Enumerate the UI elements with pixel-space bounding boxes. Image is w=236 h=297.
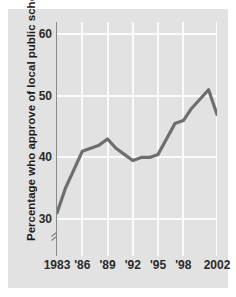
y-axis-tick-labels: 30405060	[0, 0, 52, 297]
chart-figure: Percentage who approve of local public s…	[0, 0, 236, 297]
y-tick-label-50: 50	[6, 90, 52, 102]
line-series	[57, 22, 217, 256]
x-tick-label-1983: 1983	[44, 258, 71, 272]
x-tick-label-2002: 2002	[204, 258, 231, 272]
x-tick-label-92: '92	[125, 258, 141, 272]
y-tick-label-30: 30	[6, 213, 52, 225]
x-tick-label-89: '89	[99, 258, 115, 272]
y-tick-label-40: 40	[6, 151, 52, 163]
plot-area	[57, 22, 217, 256]
x-tick-label-86: '86	[74, 258, 90, 272]
x-tick-label-98: '98	[175, 258, 191, 272]
y-tick-label-60: 60	[6, 28, 52, 40]
x-axis-tick-labels: 1983'86'89'92'95'982002	[0, 258, 236, 278]
x-tick-label-95: '95	[150, 258, 166, 272]
